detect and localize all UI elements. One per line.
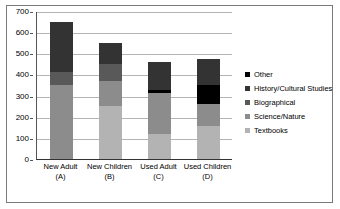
x-axis-labels: New Adult(A)New Children(B)Used Adult(C)… [36, 162, 232, 192]
legend-label: Science/Nature [254, 112, 305, 121]
y-axis-tick [30, 54, 33, 55]
legend-swatch-icon [245, 100, 250, 105]
legend-label: Other [254, 70, 273, 79]
bar-a[interactable] [50, 22, 73, 159]
chart-container: 0100200300400500600700 New Adult(A)New C… [0, 0, 340, 209]
legend-item[interactable]: Biographical [245, 96, 337, 109]
y-axis-tick [30, 139, 33, 140]
legend-swatch-icon [245, 128, 250, 133]
bar-segment [99, 43, 122, 64]
legend-swatch-icon [245, 114, 250, 119]
legend-label: Textbooks [254, 126, 288, 135]
y-axis: 0100200300400500600700 [6, 12, 33, 160]
x-axis-label-name: Used Adult [140, 162, 176, 171]
bar-segment [197, 104, 220, 126]
bar-segment [197, 85, 220, 104]
bar-segment [148, 93, 171, 133]
plot-area [36, 12, 232, 160]
bar-segment [50, 72, 73, 85]
legend-item[interactable]: Science/Nature [245, 110, 337, 123]
bar-segment [148, 134, 171, 159]
y-axis-tick [30, 33, 33, 34]
y-axis-tick-label: 700 [16, 8, 29, 16]
x-axis-label-code: (C) [131, 172, 187, 182]
x-axis-label-name: New Adult [44, 162, 78, 171]
bar-segment [99, 81, 122, 106]
x-axis-label: New Children(B) [82, 162, 138, 182]
x-axis-label-code: (A) [33, 172, 89, 182]
x-axis-label-code: (B) [82, 172, 138, 182]
y-axis-tick-label: 200 [16, 114, 29, 122]
legend-item[interactable]: Other [245, 68, 337, 81]
y-axis-tick-label: 600 [16, 29, 29, 37]
bar-segment [50, 85, 73, 159]
x-axis-label-name: New Children [87, 162, 132, 171]
y-axis-tick [30, 160, 33, 161]
bar-group [37, 12, 232, 159]
y-axis-tick [30, 97, 33, 98]
y-axis-tick [30, 118, 33, 119]
legend-item[interactable]: Textbooks [245, 124, 337, 137]
y-axis-tick-label: 300 [16, 93, 29, 101]
bar-segment [99, 64, 122, 81]
y-axis-tick-label: 100 [16, 135, 29, 143]
bar-segment [50, 22, 73, 72]
y-axis-tick [30, 12, 33, 13]
x-axis-label-name: Used Children [184, 162, 232, 171]
bar-c[interactable] [148, 62, 171, 159]
bar-d[interactable] [197, 59, 220, 159]
x-axis-label: Used Children(D) [180, 162, 236, 182]
bar-segment [197, 59, 220, 85]
x-axis-label-code: (D) [180, 172, 236, 182]
legend-label: History/Cultural Studies [254, 84, 332, 93]
y-axis-tick-label: 400 [16, 71, 29, 79]
legend-label: Biographical [254, 98, 295, 107]
y-axis-tick [30, 75, 33, 76]
y-axis-tick-label: 500 [16, 50, 29, 58]
bar-segment [197, 126, 220, 159]
legend-swatch-icon [245, 86, 250, 91]
y-axis-tick-label: 0 [25, 156, 29, 164]
bar-segment [99, 106, 122, 159]
chart-legend: OtherHistory/Cultural StudiesBiographica… [245, 68, 337, 138]
bar-b[interactable] [99, 43, 122, 159]
x-axis-label: Used Adult(C) [131, 162, 187, 182]
legend-swatch-icon [245, 72, 250, 77]
bar-segment [148, 62, 171, 90]
x-axis-label: New Adult(A) [33, 162, 89, 182]
legend-item[interactable]: History/Cultural Studies [245, 82, 337, 95]
